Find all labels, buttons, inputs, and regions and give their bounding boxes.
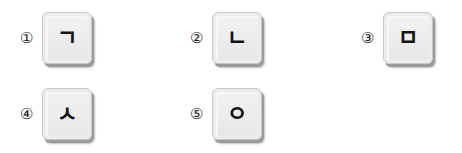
option-4[interactable]: ④ ㅅ xyxy=(16,88,92,140)
option-number: ① xyxy=(16,29,36,47)
hangul-consonant-label: ㅅ xyxy=(57,103,77,125)
keycap-button[interactable]: ㅇ xyxy=(212,88,262,140)
keycap-button[interactable]: ㅁ xyxy=(383,12,433,64)
option-1[interactable]: ① ㄱ xyxy=(16,12,92,64)
option-number: ② xyxy=(186,29,206,47)
hangul-consonant-label: ㅇ xyxy=(227,103,247,125)
hangul-consonant-label: ㄴ xyxy=(227,27,247,49)
keycap-button[interactable]: ㄴ xyxy=(212,12,262,64)
option-number: ⑤ xyxy=(186,105,206,123)
hangul-consonant-label: ㅁ xyxy=(398,27,418,49)
option-number: ④ xyxy=(16,105,36,123)
option-number: ③ xyxy=(357,29,377,47)
option-5[interactable]: ⑤ ㅇ xyxy=(186,88,262,140)
hangul-consonant-label: ㄱ xyxy=(57,27,77,49)
keycap-button[interactable]: ㄱ xyxy=(42,12,92,64)
keycap-button[interactable]: ㅅ xyxy=(42,88,92,140)
option-3[interactable]: ③ ㅁ xyxy=(357,12,433,64)
option-2[interactable]: ② ㄴ xyxy=(186,12,262,64)
